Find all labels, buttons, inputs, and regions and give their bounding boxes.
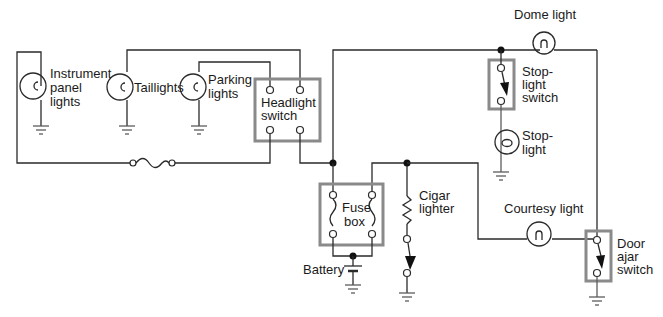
- battery: Battery: [303, 256, 362, 293]
- fuse-box: Fuse box: [320, 163, 407, 260]
- stop-light-switch: Stop- light switch: [489, 50, 558, 109]
- instrument-panel-label-2: panel: [50, 80, 82, 95]
- lamp-icon: [527, 222, 551, 246]
- instrument-panel-label-3: lights: [50, 94, 81, 109]
- headlight-switch: Headlight switch: [172, 79, 333, 163]
- stop-light-switch-label-3: switch: [522, 90, 558, 105]
- cigar-lighter: Cigar lighter: [399, 160, 455, 302]
- dome-light-label: Dome light: [514, 7, 577, 22]
- battery-label: Battery: [303, 262, 345, 277]
- taillights-label: Taillights: [134, 80, 184, 95]
- headlight-switch-label-2: switch: [261, 108, 297, 123]
- lamp-icon: [107, 74, 133, 100]
- door-ajar-label-3: switch: [617, 262, 653, 277]
- arrow-icon: [596, 255, 605, 269]
- lamp-icon: [20, 73, 46, 99]
- arrow-icon: [500, 82, 509, 96]
- courtesy-light-label: Courtesy light: [504, 201, 584, 216]
- lamp-icon: [495, 130, 519, 154]
- fuse-box-label-1: Fuse: [342, 200, 371, 215]
- inline-fuse: [17, 159, 175, 168]
- ground-icon: [589, 297, 605, 305]
- dome-light: Dome light: [514, 7, 577, 54]
- instrument-panel-label-1: Instrument: [50, 66, 112, 81]
- parking-lights-label-1: Parking: [208, 72, 252, 87]
- wiring-diagram: Instrument panel lights Taillights Parki…: [0, 0, 663, 317]
- fuse-box-label-2: box: [344, 214, 365, 229]
- ground-icon: [33, 126, 49, 134]
- resistor-icon: [403, 196, 411, 224]
- lamp-icon: [533, 32, 555, 54]
- cigar-lighter-label-2: lighter: [419, 201, 455, 216]
- stop-light-label-2: light: [522, 142, 546, 157]
- arrow-icon: [405, 256, 416, 270]
- ground-icon: [493, 172, 509, 180]
- instrument-panel-lights: Instrument panel lights: [17, 52, 112, 160]
- lamp-icon: [180, 74, 206, 100]
- stop-light-label-1: Stop-: [522, 128, 553, 143]
- ground-icon: [119, 126, 135, 134]
- ground-icon: [191, 126, 207, 134]
- ground-icon: [345, 285, 361, 293]
- stop-light: Stop- light: [493, 105, 553, 180]
- door-ajar-switch: Door ajar switch: [586, 231, 653, 305]
- parking-lights-label-2: lights: [208, 86, 239, 101]
- ground-icon: [399, 293, 415, 301]
